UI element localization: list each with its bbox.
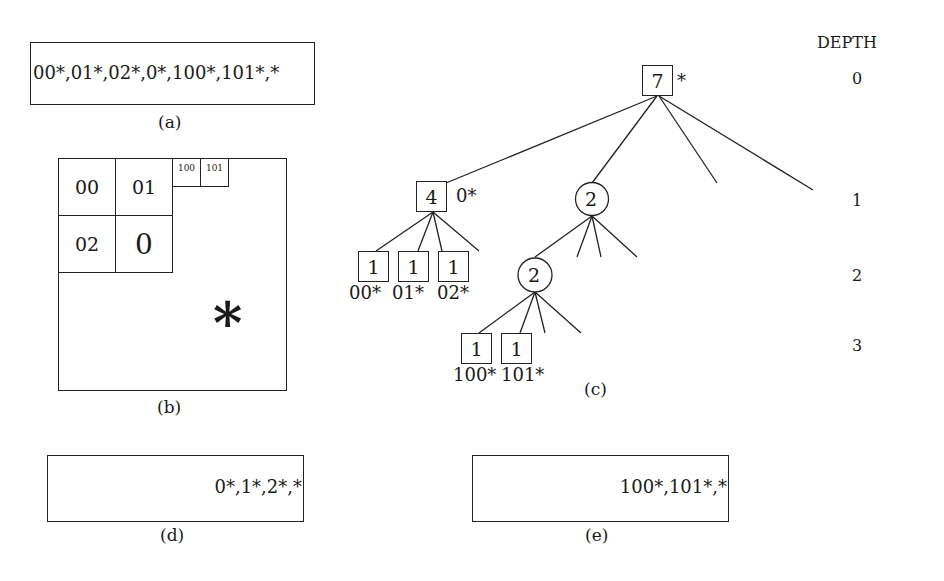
tree-leaf-101-label: 101* <box>501 364 544 385</box>
depth-1: 1 <box>852 191 862 210</box>
tree-leaf-100-value: 1 <box>470 338 482 360</box>
panel-e-sequence-box: 100*,101*,* <box>472 455 729 522</box>
tree-node-4-value: 4 <box>425 186 437 208</box>
tree-node-4-label: 0* <box>456 185 476 206</box>
tree-leaf-101-value: 1 <box>510 338 522 360</box>
depth-3: 3 <box>852 336 862 355</box>
tree-node-root-value: 7 <box>651 70 663 92</box>
tree-node-4: 4 <box>416 181 447 212</box>
panel-e-sequence: 100*,101*,* <box>620 476 727 497</box>
tree-leaf-01-value: 1 <box>407 256 419 278</box>
panel-d-caption: (d) <box>160 525 184 545</box>
panel-c-caption: (c) <box>584 379 607 399</box>
tree-leaf-01: 1 <box>398 251 429 282</box>
tree-circle-depth1-value: 2 <box>585 188 597 210</box>
depth-2: 2 <box>852 266 862 285</box>
depth-header: DEPTH <box>817 33 877 52</box>
tree-node-root-label: * <box>677 70 686 91</box>
tree-node-root: 7 <box>642 65 673 96</box>
tree-leaf-01-label: 01* <box>392 282 424 303</box>
depth-0: 0 <box>852 69 862 88</box>
panel-e-caption: (e) <box>585 525 608 545</box>
panel-d-sequence: 0*,1*,2*,* <box>214 476 302 497</box>
tree-leaf-02: 1 <box>438 251 469 282</box>
tree-leaf-00-label: 00* <box>349 282 381 303</box>
tree-leaf-00: 1 <box>358 251 389 282</box>
tree-leaf-100: 1 <box>461 333 492 364</box>
tree-leaf-02-value: 1 <box>447 256 459 278</box>
tree-leaf-00-value: 1 <box>367 256 379 278</box>
tree-leaf-02-label: 02* <box>437 282 469 303</box>
tree-leaf-101: 1 <box>501 333 532 364</box>
panel-d-sequence-box: 0*,1*,2*,* <box>47 455 304 522</box>
tree-circle-depth2-value: 2 <box>528 264 540 286</box>
tree-leaf-100-label: 100* <box>453 364 496 385</box>
